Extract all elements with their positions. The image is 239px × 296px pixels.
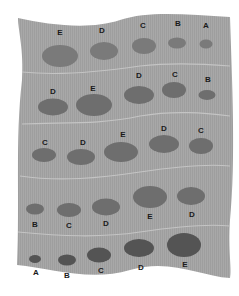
spot-label: C <box>66 221 72 230</box>
spot-b <box>199 90 216 100</box>
spot-label: E <box>147 212 153 221</box>
diagram-canvas: EDCBADEDCBCDEDCBCDEDABCDE <box>0 0 239 296</box>
spot-label: C <box>172 70 178 79</box>
spot-e <box>104 142 138 162</box>
spot-label: C <box>198 126 204 135</box>
spot-label: D <box>136 71 142 80</box>
spot-label: D <box>99 26 105 35</box>
spot-label: C <box>42 138 48 147</box>
spot-d <box>67 149 95 165</box>
spot-label: B <box>205 75 211 84</box>
spot-d <box>38 99 68 116</box>
spot-d <box>90 42 118 60</box>
spot-label: B <box>32 220 38 229</box>
spot-label: E <box>57 28 63 37</box>
spot-label: D <box>138 263 144 272</box>
spot-c <box>162 82 186 98</box>
spot-b <box>168 38 186 49</box>
spot-label: D <box>103 219 109 228</box>
spot-a <box>200 40 213 49</box>
spot-e <box>133 186 167 208</box>
spot-e <box>167 233 201 257</box>
spot-label: B <box>64 271 70 280</box>
spot-label: B <box>175 19 181 28</box>
spot-e <box>42 45 78 67</box>
spot-label: E <box>120 130 126 139</box>
spot-b <box>58 255 76 266</box>
spot-label: D <box>50 87 56 96</box>
spot-label: A <box>33 268 39 277</box>
spot-label: D <box>161 124 167 133</box>
spot-d <box>149 135 179 153</box>
spot-b <box>26 204 44 215</box>
spot-label: C <box>98 266 104 275</box>
spot-d <box>92 199 120 216</box>
spot-d <box>177 187 205 205</box>
spot-label: C <box>140 21 146 30</box>
spot-d <box>124 239 154 257</box>
spot-label: E <box>90 84 96 93</box>
spot-c <box>189 138 213 154</box>
spot-a <box>29 255 41 263</box>
spot-c <box>32 148 56 162</box>
spot-label: D <box>189 210 195 219</box>
spot-label: A <box>203 21 209 30</box>
spot-label: D <box>80 138 86 147</box>
spot-d <box>124 86 154 104</box>
spot-c <box>57 203 81 217</box>
spot-c <box>132 38 156 54</box>
spot-e <box>76 94 112 116</box>
spot-label: E <box>182 260 188 269</box>
spot-c <box>87 248 111 263</box>
